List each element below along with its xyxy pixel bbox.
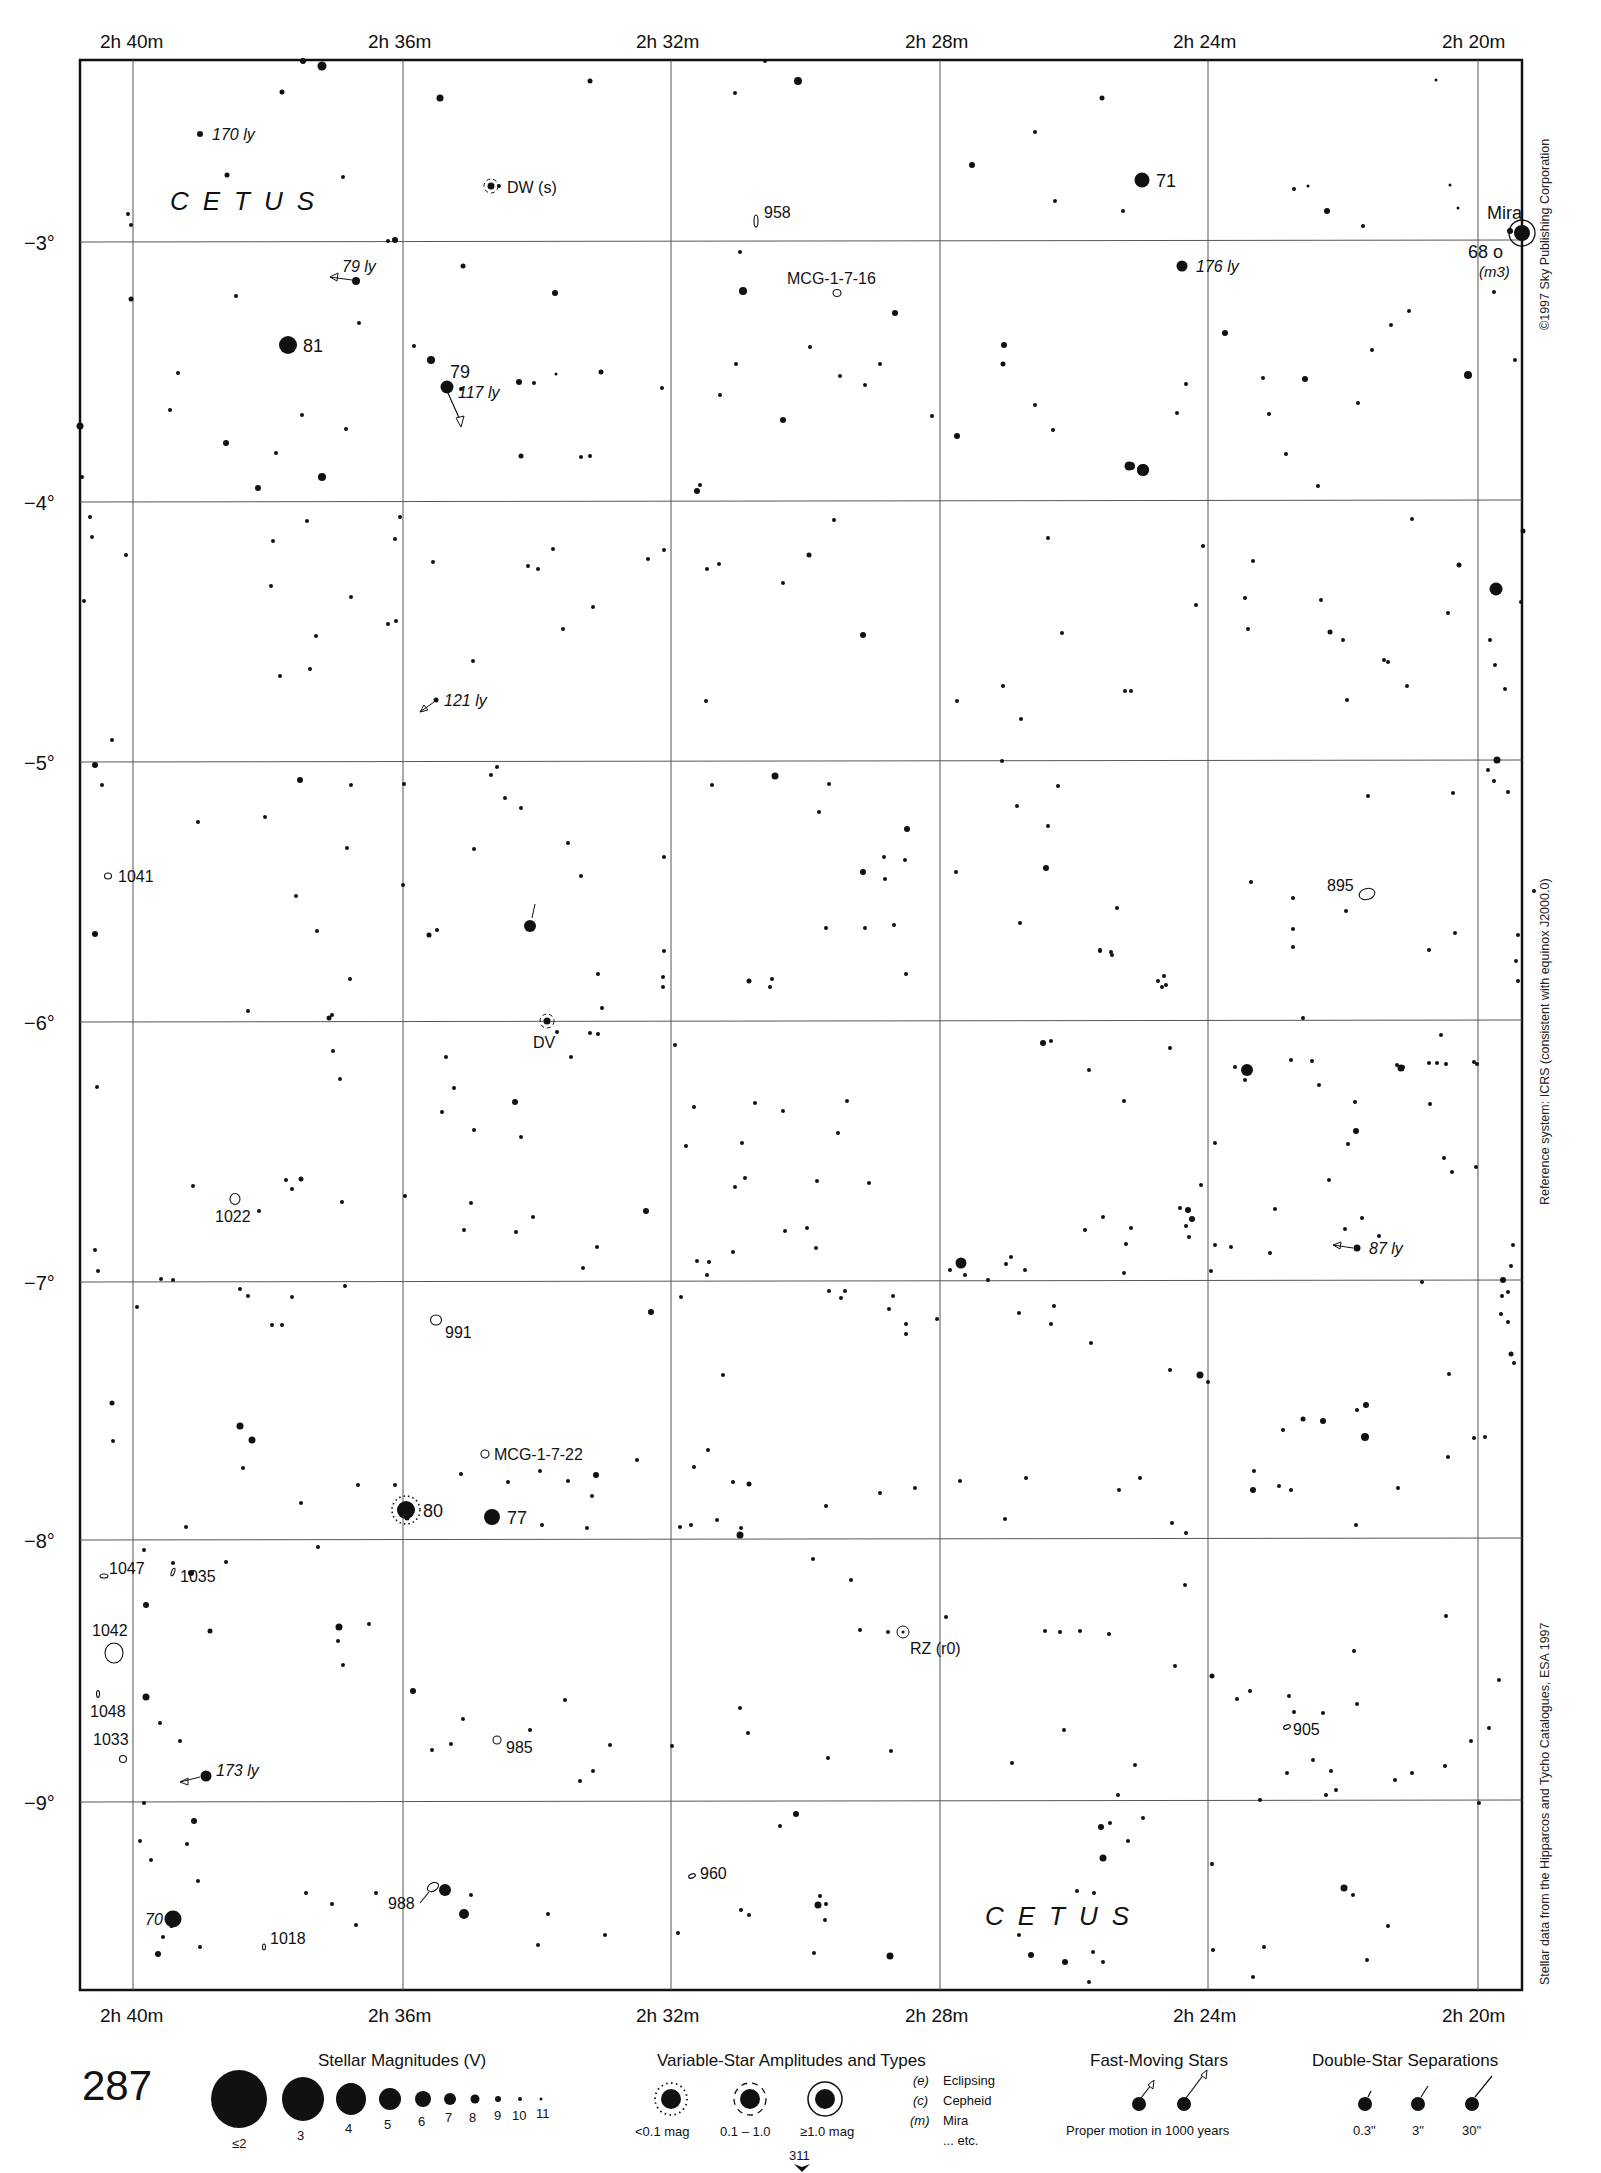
field-star bbox=[90, 535, 94, 539]
field-star bbox=[356, 1483, 360, 1487]
field-star bbox=[161, 1935, 165, 1939]
field-star bbox=[314, 634, 318, 638]
field-star bbox=[514, 1230, 518, 1234]
field-star bbox=[1355, 1702, 1359, 1706]
field-star bbox=[1514, 959, 1518, 963]
field-star bbox=[904, 972, 908, 976]
field-star bbox=[705, 567, 709, 571]
dec-grid bbox=[80, 240, 1522, 1802]
field-star bbox=[92, 762, 98, 768]
field-star bbox=[646, 557, 650, 561]
field-star bbox=[403, 1194, 407, 1198]
field-star bbox=[891, 1294, 895, 1298]
field-star bbox=[832, 518, 836, 522]
star-77[interactable] bbox=[484, 1509, 500, 1525]
field-star bbox=[444, 1055, 448, 1059]
field-star bbox=[660, 386, 664, 390]
field-star bbox=[506, 1480, 510, 1484]
field-star bbox=[591, 605, 595, 609]
field-star bbox=[836, 1131, 840, 1135]
field-star bbox=[812, 1951, 816, 1955]
field-star bbox=[1329, 1769, 1333, 1773]
field-star bbox=[155, 1951, 161, 1957]
ra-label: 2h 40m bbox=[100, 31, 163, 52]
field-star bbox=[469, 1893, 473, 1897]
mag-label: 5 bbox=[384, 2117, 391, 2132]
star-chart: 2h 40m 2h 36m 2h 32m 2h 28m 2h 24m 2h 20… bbox=[0, 0, 1601, 2173]
field-star bbox=[591, 1769, 595, 1773]
field-star bbox=[472, 1128, 476, 1132]
field-star bbox=[903, 858, 907, 862]
mag-9-icon bbox=[495, 2096, 501, 2102]
mag-label: 4 bbox=[345, 2121, 352, 2136]
field-star bbox=[290, 1187, 294, 1191]
field-star bbox=[1346, 1142, 1350, 1146]
field-star bbox=[1210, 1674, 1215, 1679]
field-star bbox=[1328, 630, 1333, 635]
field-star bbox=[1291, 896, 1295, 900]
field-star bbox=[1210, 1862, 1214, 1866]
galaxy-icon bbox=[105, 1643, 123, 1663]
ra-label: 2h 40m bbox=[100, 2005, 163, 2026]
field-star bbox=[886, 1630, 890, 1634]
magnitudes-title: Stellar Magnitudes (V) bbox=[318, 2051, 486, 2070]
ra-labels-top: 2h 40m 2h 36m 2h 32m 2h 28m 2h 24m 2h 20… bbox=[100, 31, 1505, 52]
field-star bbox=[1386, 660, 1390, 664]
field-star bbox=[718, 393, 722, 397]
field-star bbox=[1251, 1975, 1255, 1979]
field-star bbox=[555, 1030, 559, 1034]
star-79[interactable] bbox=[441, 381, 454, 394]
galaxy-label: 960 bbox=[700, 1865, 727, 1882]
type-name: Eclipsing bbox=[943, 2073, 995, 2088]
field-star bbox=[1052, 1304, 1056, 1308]
star-71[interactable] bbox=[1135, 173, 1150, 188]
field-star bbox=[954, 433, 960, 439]
field-star bbox=[1075, 1889, 1079, 1893]
constellation-label: CETUS bbox=[985, 1901, 1143, 1931]
distance-label: 121 ly bbox=[444, 692, 488, 709]
field-star bbox=[569, 1055, 573, 1059]
field-star bbox=[954, 870, 958, 874]
galaxy-label: 1042 bbox=[92, 1622, 128, 1639]
field-star bbox=[1439, 1033, 1443, 1037]
ra-labels-bottom: 2h 40m 2h 36m 2h 32m 2h 28m 2h 24m 2h 20… bbox=[100, 2005, 1505, 2026]
field-star bbox=[1115, 906, 1119, 910]
dec-label: −9° bbox=[24, 1792, 55, 1814]
star-173ly[interactable] bbox=[201, 1771, 212, 1782]
down-arrow-icon[interactable] bbox=[794, 2164, 810, 2172]
field-star bbox=[1427, 1061, 1431, 1065]
field-star bbox=[889, 1749, 893, 1753]
field-star bbox=[1343, 1227, 1347, 1231]
field-star bbox=[793, 1811, 799, 1817]
type-name: Mira bbox=[943, 2113, 969, 2128]
field-star bbox=[1506, 1290, 1510, 1294]
field-star bbox=[430, 1748, 434, 1752]
galaxy-label: 895 bbox=[1327, 877, 1354, 894]
type-code: (m) bbox=[910, 2113, 930, 2128]
next-chart-link[interactable]: 311 bbox=[789, 2148, 810, 2163]
field-star bbox=[739, 1526, 743, 1530]
star-mira[interactable] bbox=[1514, 225, 1530, 241]
star-81[interactable] bbox=[279, 336, 297, 354]
field-star bbox=[963, 1273, 967, 1277]
field-star bbox=[257, 1209, 261, 1213]
star-176ly[interactable] bbox=[1177, 261, 1188, 272]
field-star bbox=[142, 1548, 146, 1552]
variable-star-dv[interactable] bbox=[544, 1018, 551, 1025]
distance-label: 79 ly bbox=[342, 258, 377, 275]
star bbox=[427, 356, 435, 364]
field-star bbox=[969, 162, 975, 168]
reference-system-note: Reference system: ICRS (consistent with … bbox=[1538, 878, 1552, 1205]
field-star bbox=[1273, 1207, 1277, 1211]
variable-star-dw[interactable] bbox=[488, 183, 495, 190]
field-star bbox=[1401, 1065, 1405, 1069]
field-star bbox=[1316, 484, 1320, 488]
field-star bbox=[849, 1578, 853, 1582]
field-star bbox=[827, 782, 831, 786]
field-star bbox=[459, 1472, 463, 1476]
field-star bbox=[826, 1756, 830, 1760]
field-star bbox=[867, 1181, 871, 1185]
field-star bbox=[817, 810, 821, 814]
field-star bbox=[1001, 362, 1006, 367]
field-star bbox=[807, 553, 812, 558]
